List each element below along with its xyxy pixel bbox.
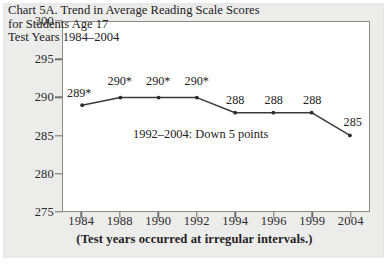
chart-figure: 300295290285280275 Chart 5A. Trend in Av… xyxy=(0,0,389,272)
x-axis-tick-mark xyxy=(119,212,120,218)
chart-footnote: (Test years occurred at irregular interv… xyxy=(0,232,389,247)
data-point-marker xyxy=(348,134,352,138)
chart-title-line-3: Test Years 1984–2004 xyxy=(8,31,298,45)
x-axis-tick-mark xyxy=(235,212,236,218)
x-axis-tick-mark xyxy=(196,212,197,218)
y-axis-tick-mark xyxy=(55,211,62,212)
y-axis-tick-label: 275 xyxy=(35,205,54,220)
x-axis-tick-mark xyxy=(81,212,82,218)
x-axis-tick-mark xyxy=(158,212,159,218)
data-point-marker xyxy=(233,111,237,115)
data-point-label: 288 xyxy=(265,93,283,108)
x-axis-tick-mark xyxy=(312,212,313,218)
y-axis-tick-mark xyxy=(55,173,62,174)
x-axis-tick-mark xyxy=(350,212,351,218)
data-point-marker xyxy=(157,96,161,100)
data-point-label: 288 xyxy=(226,93,244,108)
data-point-label: 290* xyxy=(185,74,209,89)
y-axis-tick-mark xyxy=(55,20,62,21)
data-point-marker xyxy=(118,96,122,100)
data-point-marker xyxy=(195,96,199,100)
data-point-label: 285 xyxy=(344,115,362,130)
x-axis: 19841988199019921994199619992004 xyxy=(62,214,370,232)
data-point-marker xyxy=(310,111,314,115)
data-point-label: 288 xyxy=(303,93,321,108)
plot-frame xyxy=(62,21,370,212)
y-axis-tick-label: 280 xyxy=(35,166,54,181)
trend-annotation: 1992–2004: Down 5 points xyxy=(133,127,268,142)
plot-area xyxy=(63,22,369,211)
y-axis-tick-mark xyxy=(55,58,62,59)
y-axis-tick-mark xyxy=(55,97,62,98)
data-point-marker xyxy=(271,111,275,115)
data-point-label: 290* xyxy=(108,74,132,89)
data-point-label: 289* xyxy=(67,86,91,101)
chart-title-line-1: Chart 5A. Trend in Average Reading Scale… xyxy=(8,4,298,18)
x-axis-tick-mark xyxy=(273,212,274,218)
data-point-marker xyxy=(80,103,84,107)
y-axis: 300295290285280275 xyxy=(14,21,54,212)
y-axis-tick-label: 285 xyxy=(35,128,54,143)
chart-title-line-2: for Students Age 17 xyxy=(8,18,298,32)
chart-title: Chart 5A. Trend in Average Reading Scale… xyxy=(8,4,298,45)
data-point-label: 290* xyxy=(146,74,170,89)
y-axis-tick-mark xyxy=(55,135,62,136)
y-axis-tick-label: 295 xyxy=(35,52,54,67)
y-axis-tick-label: 290 xyxy=(35,90,54,105)
reading-score-line-series xyxy=(63,22,369,211)
